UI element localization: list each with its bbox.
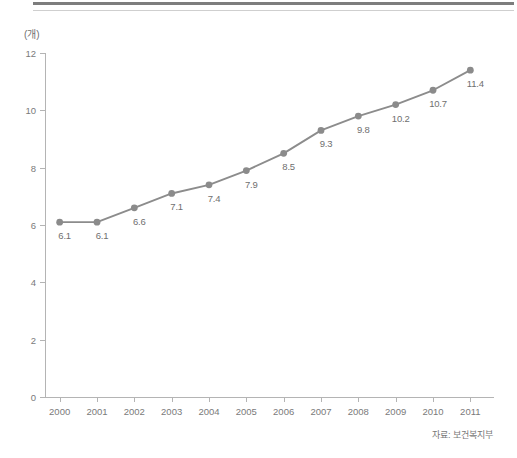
x-tick-label-2011: 2011: [460, 406, 480, 417]
data-point-marker-2009: [392, 101, 399, 108]
x-tick-mark-2011: [470, 397, 471, 402]
x-tick-mark-2005: [246, 397, 247, 402]
y-tick-label: 10: [25, 105, 36, 116]
y-tick-label: 0: [31, 392, 36, 403]
data-point-marker-2004: [206, 181, 213, 188]
y-tick-mark: [40, 397, 45, 398]
data-point-marker-2000: [56, 219, 63, 226]
data-point-marker-2006: [280, 150, 287, 157]
data-point-marker-2007: [318, 127, 325, 134]
x-tick-label-2010: 2010: [422, 406, 443, 417]
y-tick-label: 4: [31, 277, 36, 288]
x-tick-label-2009: 2009: [385, 406, 406, 417]
data-point-label-2006: 8.5: [282, 161, 295, 172]
x-tick-mark-2007: [321, 397, 322, 402]
y-tick-label: 12: [25, 48, 36, 59]
x-tick-mark-2010: [433, 397, 434, 402]
x-axis-line: [45, 397, 494, 398]
line-series: [45, 53, 493, 397]
x-tick-mark-2009: [396, 397, 397, 402]
y-tick-label: 6: [31, 220, 36, 231]
x-tick-mark-2002: [134, 397, 135, 402]
data-point-label-2011: 11.4: [467, 78, 484, 89]
x-tick-mark-2004: [209, 397, 210, 402]
data-point-marker-2002: [131, 204, 138, 211]
y-tick-label: 8: [31, 162, 36, 173]
data-point-marker-2010: [430, 87, 437, 94]
data-point-label-2010: 10.7: [429, 98, 447, 109]
data-point-label-2005: 7.9: [245, 179, 258, 190]
data-point-label-2000: 6.1: [58, 230, 71, 241]
data-point-marker-2008: [355, 113, 362, 120]
x-tick-mark-2000: [60, 397, 61, 402]
x-tick-mark-2003: [172, 397, 173, 402]
x-tick-mark-2008: [358, 397, 359, 402]
source-note: 자료: 보건복지부: [432, 428, 493, 441]
series-line: [60, 70, 471, 222]
data-point-label-2003: 7.1: [170, 201, 183, 212]
data-point-label-2004: 7.4: [208, 193, 221, 204]
header-rule-thin: [33, 10, 514, 11]
x-tick-label-2001: 2001: [86, 406, 107, 417]
data-point-label-2001: 6.1: [96, 230, 109, 241]
x-tick-label-2004: 2004: [198, 406, 219, 417]
data-point-label-2009: 10.2: [392, 113, 410, 124]
data-point-marker-2003: [168, 190, 175, 197]
header-rule-thick: [33, 2, 514, 5]
x-tick-label-2003: 2003: [161, 406, 182, 417]
data-point-marker-2011: [467, 67, 474, 74]
x-tick-label-2005: 2005: [236, 406, 257, 417]
x-tick-mark-2001: [97, 397, 98, 402]
x-tick-label-2002: 2002: [124, 406, 145, 417]
x-tick-mark-2006: [284, 397, 285, 402]
data-point-marker-2001: [94, 219, 101, 226]
data-point-label-2002: 6.6: [133, 216, 146, 227]
data-point-marker-2005: [243, 167, 250, 174]
data-point-label-2008: 9.8: [357, 124, 370, 135]
x-tick-label-2000: 2000: [49, 406, 70, 417]
plot-area: 024681012 200020012002200320042005200620…: [45, 53, 493, 397]
chart-page: (개) 024681012 20002001200220032004200520…: [0, 0, 517, 458]
x-tick-label-2006: 2006: [273, 406, 294, 417]
x-tick-label-2007: 2007: [310, 406, 331, 417]
x-tick-label-2008: 2008: [348, 406, 369, 417]
y-tick-label: 2: [31, 334, 36, 345]
y-axis-unit-label: (개): [24, 26, 40, 41]
data-point-label-2007: 9.3: [320, 138, 333, 149]
